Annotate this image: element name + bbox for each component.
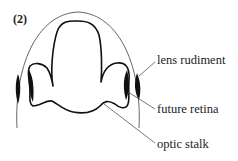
outer-ectoderm [17, 12, 140, 128]
diagram: (2) lens rudiment future retina optic st… [0, 0, 238, 161]
label-future-retina: future retina [157, 103, 218, 116]
label-optic-stalk: optic stalk [157, 138, 209, 151]
panel-label: (2) [13, 13, 27, 25]
leader-lens-rudiment [139, 62, 155, 76]
neural-tube-outline [28, 21, 129, 113]
leader-future-retina [128, 92, 155, 109]
label-lens-rudiment: lens rudiment [157, 54, 225, 67]
leader-optic-stalk [104, 104, 155, 143]
lens-rudiment-left [16, 74, 21, 104]
future-retina-right [124, 70, 129, 100]
